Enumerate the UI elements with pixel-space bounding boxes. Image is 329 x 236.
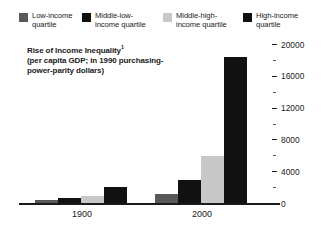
legend-item-middle-low-income: Middle-low-income quartile bbox=[82, 11, 154, 29]
y-tick-8000: 8000 bbox=[272, 139, 300, 140]
x-axis-line bbox=[19, 203, 280, 205]
chart-plot-area bbox=[19, 44, 268, 204]
y-tick-4000: 4000 bbox=[272, 171, 300, 172]
bar-2000-series-3 bbox=[224, 57, 247, 204]
legend-swatch-low-income bbox=[19, 13, 28, 22]
bar-group-1900 bbox=[35, 44, 130, 204]
legend-item-middle-high-income: Middle-high-income quartile bbox=[163, 11, 235, 29]
y-tick-mark-minor-2000 bbox=[273, 187, 276, 188]
legend-swatch-middle-low-income bbox=[82, 13, 91, 22]
chart-legend: Low-income quartile Middle-low-income qu… bbox=[0, 0, 329, 36]
legend-label-middle-high-income: Middle-high-income quartile bbox=[176, 11, 235, 29]
legend-label-middle-low-income: Middle-low-income quartile bbox=[95, 11, 154, 29]
legend-item-low-income: Low-income quartile bbox=[19, 11, 81, 29]
y-tick-mark-major-0 bbox=[272, 203, 277, 204]
bar-1900-series-3 bbox=[104, 187, 127, 204]
x-axis-label-1900: 1900 bbox=[52, 209, 112, 219]
y-tick-2000 bbox=[272, 187, 276, 188]
y-tick-mark-major-16000 bbox=[272, 76, 277, 77]
y-tick-mark-minor-18000 bbox=[273, 60, 276, 61]
y-tick-label-12000: 12000 bbox=[281, 103, 304, 113]
legend-swatch-high-income bbox=[243, 13, 252, 22]
y-tick-18000 bbox=[272, 60, 276, 61]
y-tick-0: 0 bbox=[272, 203, 286, 204]
y-tick-16000: 16000 bbox=[272, 76, 304, 77]
legend-swatch-middle-high-income bbox=[163, 13, 172, 22]
y-tick-mark-minor-6000 bbox=[273, 155, 276, 156]
y-tick-mark-major-12000 bbox=[272, 108, 277, 109]
bar-group-2000 bbox=[155, 44, 250, 204]
x-axis-label-2000: 2000 bbox=[172, 209, 232, 219]
legend-label-high-income: High-income quartile bbox=[256, 11, 313, 29]
bar-2000-series-2 bbox=[201, 156, 224, 204]
y-tick-14000 bbox=[272, 92, 276, 93]
y-tick-label-16000: 16000 bbox=[281, 71, 304, 81]
legend-label-low-income: Low-income quartile bbox=[32, 11, 81, 29]
y-tick-6000 bbox=[272, 155, 276, 156]
y-axis: 040008000120001600020000 bbox=[272, 44, 329, 205]
y-tick-mark-major-4000 bbox=[272, 171, 277, 172]
y-tick-label-20000: 20000 bbox=[281, 40, 304, 50]
y-tick-mark-minor-10000 bbox=[273, 124, 276, 125]
y-tick-mark-major-8000 bbox=[272, 139, 277, 140]
bar-2000-series-1 bbox=[178, 180, 201, 204]
chart-bars-container bbox=[19, 44, 268, 204]
y-tick-label-4000: 4000 bbox=[281, 167, 300, 177]
y-tick-10000 bbox=[272, 124, 276, 125]
y-tick-12000: 12000 bbox=[272, 108, 304, 109]
y-tick-label-8000: 8000 bbox=[281, 135, 300, 145]
y-tick-mark-minor-14000 bbox=[273, 92, 276, 93]
y-tick-label-0: 0 bbox=[281, 199, 286, 209]
y-tick-20000: 20000 bbox=[272, 44, 304, 45]
y-tick-mark-major-20000 bbox=[272, 44, 277, 45]
legend-item-high-income: High-income quartile bbox=[243, 11, 313, 29]
